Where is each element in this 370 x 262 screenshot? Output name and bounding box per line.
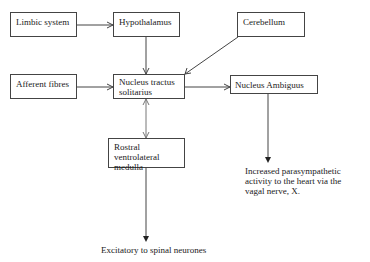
node-nucleus-tractus-solitarius: Nucleus tractus solitarius [113, 74, 185, 99]
output-spinal-label: Excitatory to spinal neurones [101, 245, 231, 255]
arrowhead-filled-icon [143, 236, 149, 242]
output-parasympathetic-label: Increased parasympathetic activity to th… [245, 166, 360, 196]
edge-cerebellum-nts [185, 37, 238, 74]
node-label: Cerebellum [243, 17, 285, 27]
node-cerebellum: Cerebellum [237, 12, 305, 37]
node-label: Rostral ventrolateral medulla [114, 142, 159, 172]
node-label: Nucleus Ambiguus [235, 80, 304, 90]
arrowhead-filled-icon [265, 157, 271, 163]
node-limbic-system: Limbic system [10, 12, 77, 37]
node-afferent-fibres: Afferent fibres [10, 74, 77, 99]
connector-layer [0, 0, 370, 262]
node-label: Nucleus tractus solitarius [119, 77, 175, 97]
node-rostral-ventrolateral-medulla: Rostral ventrolateral medulla [108, 138, 185, 168]
node-hypothalamus: Hypothalamus [113, 12, 180, 37]
node-label: Hypothalamus [119, 17, 172, 27]
node-nucleus-ambiguus: Nucleus Ambiguus [230, 75, 318, 94]
node-label: Afferent fibres [16, 79, 69, 89]
node-label: Limbic system [16, 17, 69, 27]
